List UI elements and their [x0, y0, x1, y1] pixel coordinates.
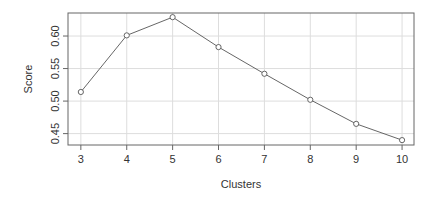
- x-tick-label: 9: [353, 153, 359, 165]
- x-tick-label: 6: [215, 153, 221, 165]
- y-tick-label: 0.50: [49, 90, 61, 111]
- data-point-marker: [170, 15, 175, 20]
- data-point-marker: [399, 138, 404, 143]
- y-tick-label: 0.45: [49, 123, 61, 144]
- data-point-marker: [216, 44, 221, 49]
- x-axis: 345678910: [78, 145, 408, 165]
- data-point-marker: [262, 71, 267, 76]
- y-tick-label: 0.55: [49, 58, 61, 79]
- x-tick-label: 8: [307, 153, 313, 165]
- data-point-marker: [308, 97, 313, 102]
- x-axis-title: Clusters: [221, 178, 262, 190]
- data-point-marker: [354, 121, 359, 126]
- y-axis: 0.450.500.550.60: [49, 25, 68, 144]
- plot-box: [68, 13, 414, 145]
- y-axis-title: Score: [22, 65, 34, 94]
- data-point-marker: [124, 33, 129, 38]
- x-tick-label: 4: [124, 153, 130, 165]
- grid-lines: [68, 13, 414, 145]
- x-tick-label: 5: [170, 153, 176, 165]
- x-tick-label: 7: [261, 153, 267, 165]
- x-tick-label: 10: [396, 153, 408, 165]
- data-point-marker: [78, 89, 83, 94]
- line-chart: 345678910 0.450.500.550.60 Clusters Scor…: [0, 0, 436, 205]
- y-tick-label: 0.60: [49, 25, 61, 46]
- x-tick-label: 3: [78, 153, 84, 165]
